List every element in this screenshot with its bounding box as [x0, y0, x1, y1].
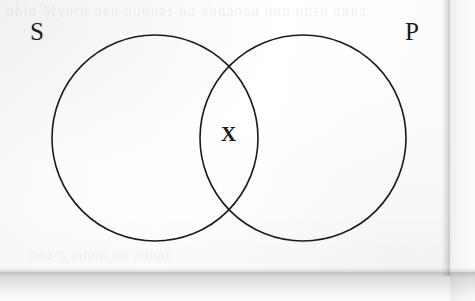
- label-p: P: [405, 19, 419, 44]
- outside-page-area-right: [450, 0, 475, 301]
- label-s: S: [30, 19, 44, 44]
- scanned-page: nhin Mynru nan nunnas nu annanau nun uns…: [0, 0, 475, 301]
- label-x-intersection: X: [221, 124, 236, 145]
- page-bottom-shadow: [0, 268, 475, 301]
